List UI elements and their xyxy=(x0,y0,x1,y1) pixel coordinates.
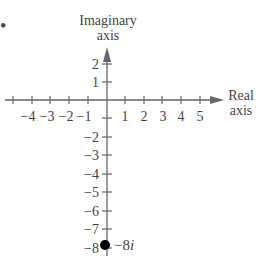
complex-plane-diagram: • Imaginary axis Real axis −4 −3 −2 −1 1… xyxy=(0,0,262,266)
svg-text:−1: −1 xyxy=(77,109,92,124)
real-axis-label: Real xyxy=(228,88,254,103)
imaginary-axis-arrow-icon xyxy=(103,47,111,62)
svg-text:3: 3 xyxy=(160,109,167,124)
svg-text:2: 2 xyxy=(92,57,99,72)
point-label-prefix: −8 xyxy=(114,237,130,253)
svg-text:−2: −2 xyxy=(84,130,99,145)
svg-text:−6: −6 xyxy=(84,204,99,219)
svg-text:−3: −3 xyxy=(40,109,55,124)
svg-text:−4: −4 xyxy=(84,167,99,182)
svg-text:−3: −3 xyxy=(84,148,99,163)
svg-text:1: 1 xyxy=(92,75,99,90)
point-label: −8i xyxy=(114,237,134,253)
svg-text:−2: −2 xyxy=(59,109,74,124)
svg-text:−8: −8 xyxy=(84,241,99,256)
real-tick-labels: −4 −3 −2 −1 1 2 3 4 5 xyxy=(21,109,204,124)
real-axis-arrow-icon xyxy=(210,96,224,104)
real-axis-label-2: axis xyxy=(230,103,253,118)
svg-text:−7: −7 xyxy=(84,222,99,237)
svg-text:−4: −4 xyxy=(21,109,36,124)
point-marker xyxy=(100,240,110,250)
svg-text:4: 4 xyxy=(178,109,185,124)
imaginary-axis-label: Imaginary xyxy=(79,13,137,28)
imaginary-axis-label-2: axis xyxy=(97,28,120,43)
point-label-i: i xyxy=(130,237,134,253)
imaginary-tick-labels: 2 1 −2 −3 −4 −5 −6 −7 −8 xyxy=(84,57,99,256)
svg-text:5: 5 xyxy=(197,109,204,124)
svg-text:−5: −5 xyxy=(84,185,99,200)
list-bullet: • xyxy=(0,16,6,36)
svg-text:2: 2 xyxy=(141,109,148,124)
svg-text:1: 1 xyxy=(122,109,129,124)
